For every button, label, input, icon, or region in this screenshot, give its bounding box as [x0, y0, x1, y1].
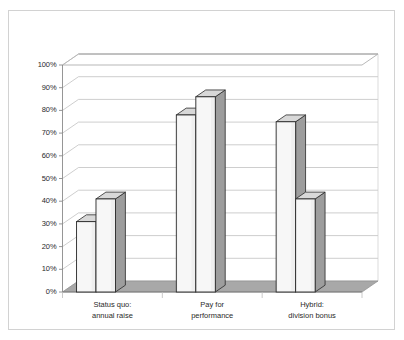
y-axis-label-30%: 30% [27, 219, 57, 228]
category-label-line-1: Pay for [200, 300, 224, 309]
y-axis-label-80%: 80% [27, 105, 57, 114]
plot-back-wall [63, 54, 379, 65]
y-axis-ticks [59, 65, 63, 292]
y-axis-label-20%: 20% [27, 242, 57, 251]
gridline-depth-connector [63, 99, 79, 110]
gridline-depth-connector [63, 168, 79, 179]
bar-1-series-2 [96, 192, 125, 292]
gridline-depth-connector [63, 190, 79, 201]
y-axis-label-90%: 90% [27, 83, 57, 92]
category-label-line-1: Hybrid: [300, 300, 324, 309]
y-axis-label-60%: 60% [27, 151, 57, 160]
y-axis-label-40%: 40% [27, 196, 57, 205]
category-label-line-2: division bonus [252, 311, 372, 322]
y-axis-label-0%: 0% [27, 287, 57, 296]
bar-2-series-2 [196, 90, 225, 292]
bar-3-series-2 [296, 192, 325, 292]
y-axis-label-100%: 100% [27, 60, 57, 69]
category-label-line-1: Status quo: [93, 300, 131, 309]
bar-series-group [76, 90, 325, 292]
gridline-depth-connector [63, 122, 79, 133]
y-axis-label-50%: 50% [27, 174, 57, 183]
gridline-depth-connector [63, 145, 79, 156]
gridline-depth-connector [63, 77, 79, 88]
x-axis-category-label-3: Hybrid:division bonus [252, 300, 372, 321]
x-axis-ticks [63, 292, 363, 298]
chart-plot-svg [0, 0, 404, 340]
y-axis-label-10%: 10% [27, 264, 57, 273]
y-axis-label-70%: 70% [27, 128, 57, 137]
chart-figure: 0%10%20%30%40%50%60%70%80%90%100% Status… [0, 0, 404, 340]
